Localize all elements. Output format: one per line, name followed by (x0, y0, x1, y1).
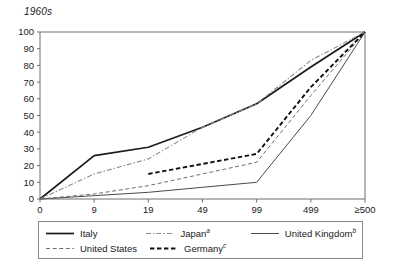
y-tick-label: 30 (23, 143, 34, 154)
x-tick-label: ≥500 (354, 204, 375, 215)
y-tick-label: 20 (23, 160, 34, 171)
x-tick-label: 99 (251, 204, 262, 215)
legend-label-italy: Italy (80, 229, 97, 239)
legend-row: Italy Japana United Kingdomb (45, 226, 356, 241)
y-tick-label: 70 (23, 77, 34, 88)
legend-swatch-united-kingdom (250, 229, 280, 238)
legend-footnote-japan: a (206, 227, 210, 234)
y-tick-label: 50 (23, 110, 34, 121)
y-tick-label: 80 (23, 60, 34, 71)
x-tick-label: 499 (303, 204, 319, 215)
chart-screenshot: 1960s 0102030405060708090100 09194999499… (0, 0, 401, 267)
legend-item-germany[interactable]: Germanyc (149, 243, 226, 254)
y-tick-label: 60 (23, 93, 34, 104)
legend-swatch-italy (45, 229, 75, 238)
x-axis-ticks: 09194999499≥500 (37, 199, 375, 215)
legend-label-germany: Germanyc (184, 243, 226, 254)
legend-footnote-united-kingdom: b (352, 227, 356, 234)
legend-item-united-kingdom[interactable]: United Kingdomb (250, 228, 356, 239)
legend-swatch-united-states (45, 244, 75, 253)
y-tick-label: 90 (23, 43, 34, 54)
y-axis-ticks: 0102030405060708090100 (18, 26, 40, 204)
legend-label-united-states: United States (80, 244, 137, 254)
legend-swatch-germany (149, 244, 179, 253)
series-line-japan (40, 32, 365, 199)
y-tick-label: 100 (18, 26, 34, 37)
x-tick-label: 49 (197, 204, 208, 215)
y-tick-label: 0 (29, 193, 34, 204)
x-tick-label: 9 (92, 204, 97, 215)
y-tick-label: 40 (23, 127, 34, 138)
x-tick-label: 0 (37, 204, 42, 215)
legend-footnote-germany: c (223, 242, 226, 249)
y-tick-label: 10 (23, 177, 34, 188)
x-tick-label: 19 (143, 204, 154, 215)
legend-item-italy[interactable]: Italy (45, 229, 145, 239)
legend-item-united-states[interactable]: United States (45, 244, 149, 254)
legend-label-united-kingdom: United Kingdomb (285, 228, 356, 239)
legend-label-japan: Japana (180, 228, 210, 239)
chart-legend: Italy Japana United Kingdomb United Stat… (38, 221, 363, 259)
legend-row: United States Germanyc (45, 241, 356, 256)
legend-swatch-japan (145, 229, 175, 238)
legend-item-japan[interactable]: Japana (145, 228, 249, 239)
series-layer (40, 32, 365, 199)
